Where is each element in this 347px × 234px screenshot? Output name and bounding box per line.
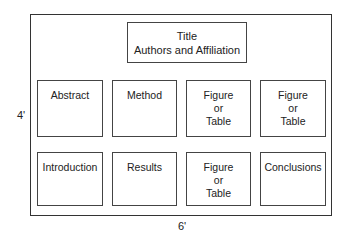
title-box: Title Authors and Affiliation [127,22,247,63]
box-label: or [187,174,250,187]
box-label: Figure [187,89,250,102]
box-label: Table [187,187,250,200]
conclusions-box: Conclusions [260,152,326,206]
authors-label: Authors and Affiliation [128,43,246,57]
box-label: Figure [261,89,325,102]
box-label: Table [261,115,325,128]
method-box: Method [112,80,177,137]
results-box: Results [112,152,177,206]
box-label: Results [113,161,176,174]
title-label: Title [128,29,246,43]
box-label: Conclusions [261,161,325,174]
figure-table-box: Figure or Table [186,152,251,206]
box-label: Introduction [38,161,102,174]
figure-table-box: Figure or Table [186,80,251,137]
abstract-box: Abstract [37,80,103,137]
width-label: 6' [178,220,186,232]
box-label: Table [187,115,250,128]
box-label: or [187,102,250,115]
figure-table-box: Figure or Table [260,80,326,137]
introduction-box: Introduction [37,152,103,206]
height-label: 4' [17,109,25,121]
box-label: Figure [187,161,250,174]
box-label: Method [113,89,176,102]
box-label: or [261,102,325,115]
box-label: Abstract [38,89,102,102]
